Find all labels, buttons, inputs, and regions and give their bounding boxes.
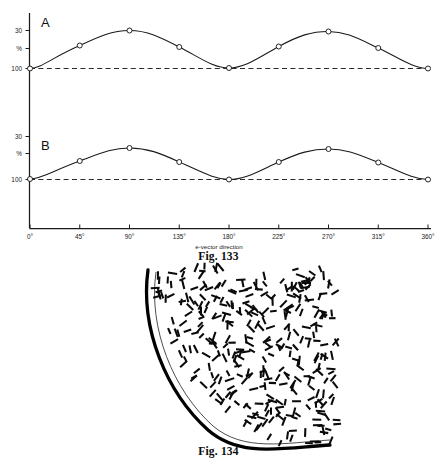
microvillus-dash (323, 389, 324, 398)
x-axis-group (30, 225, 432, 229)
microvillus-dash (319, 266, 322, 273)
fig133-plot: 30 % 100 30 % 100 A B (0, 0, 437, 262)
marker-b-270 (326, 147, 331, 152)
microvillus-dash (199, 333, 204, 337)
microvillus-dash (258, 324, 264, 331)
microvillus-dash (209, 363, 210, 371)
microvillus-dash (325, 353, 326, 361)
microvillus-dash (247, 320, 251, 327)
microvillus-dash (189, 345, 190, 353)
marker-a-270 (326, 29, 331, 34)
microvillus-dash (309, 271, 315, 276)
microvillus-dash (262, 419, 267, 427)
y-ticklabel-b-30: 30 (15, 133, 23, 140)
microvillus-dash (296, 274, 305, 277)
microvillus-dash (225, 322, 233, 323)
panel-b (28, 146, 431, 183)
microvillus-dash (312, 306, 318, 308)
microvillus-dash (279, 383, 287, 385)
microvillus-dash (266, 371, 269, 379)
microvillus-dash (295, 413, 300, 417)
microvillus-dash (263, 368, 264, 377)
microvillus-dash (285, 399, 286, 405)
microvillus-dash (255, 289, 263, 290)
microvillus-dash (316, 326, 317, 332)
microvillus-dash (222, 280, 226, 287)
marker-a-180 (227, 66, 232, 71)
microvillus-dash (210, 390, 216, 397)
microvillus-dash (322, 313, 324, 319)
microvillus-dash (280, 300, 287, 307)
microvillus-dash (324, 378, 328, 384)
microvillus-dash (288, 332, 290, 341)
panel-letter-a: A (41, 15, 50, 30)
y-ticklabel-b-100: 100 (11, 176, 22, 183)
microvillus-dash (179, 278, 185, 281)
microvillus-dash (316, 411, 325, 412)
arc-outline-group (147, 270, 330, 449)
microvillus-dash (200, 294, 206, 300)
microvillus-dash (331, 375, 336, 382)
microvillus-dash (308, 340, 310, 348)
microvillus-dash (316, 389, 319, 398)
microvillus-dash (210, 382, 216, 388)
microvillus-dash (323, 271, 324, 280)
microvillus-dash (323, 427, 325, 435)
microvillus-dash (247, 337, 253, 339)
microvillus-dash (227, 386, 234, 390)
microvillus-dash (206, 301, 209, 307)
microvillus-dash (263, 281, 267, 286)
microvillus-dash (251, 312, 258, 315)
microvillus-dash (179, 301, 186, 302)
microvillus-dash (249, 388, 258, 390)
microvillus-dash (331, 397, 334, 405)
marker-b-45 (77, 159, 82, 164)
microvillus-dash (293, 329, 298, 336)
marker-a-135 (177, 45, 182, 50)
microvillus-dash (189, 296, 194, 304)
microvillus-dash (242, 301, 249, 303)
microvillus-dash (217, 393, 223, 400)
x-ticklabel-225: 225° (272, 233, 286, 240)
microvilli-dash-field (151, 263, 341, 446)
microvillus-dash (204, 307, 207, 313)
microvillus-dash (326, 369, 335, 370)
microvillus-dash (194, 263, 198, 272)
microvillus-dash (228, 349, 229, 356)
curve-b (30, 148, 428, 180)
microvillus-dash (292, 417, 298, 419)
microvillus-dash (308, 397, 315, 400)
microvillus-dash (248, 326, 254, 332)
microvillus-dash (225, 378, 234, 381)
microvillus-dash (319, 293, 327, 294)
arc-outline (147, 270, 330, 449)
microvillus-dash (285, 284, 287, 292)
microvillus-dash (331, 310, 332, 317)
microvillus-dash (293, 407, 295, 416)
x-ticklabel-360: 360° (421, 233, 435, 240)
marker-b-0 (28, 177, 33, 182)
marker-b-315 (376, 160, 381, 165)
microvillus-dash (183, 345, 186, 352)
microvillus-dash (331, 290, 338, 295)
microvillus-dash (306, 405, 310, 410)
y-ticklabel-b-percent: % (16, 150, 22, 157)
microvillus-dash (310, 277, 314, 281)
microvillus-dash (213, 332, 216, 341)
x-ticklabel-270: 270° (322, 233, 336, 240)
microvillus-dash (313, 332, 314, 338)
panel-letter-b: B (41, 138, 50, 153)
microvillus-dash (290, 435, 293, 442)
microvillus-dash (305, 338, 312, 339)
marker-a-90 (127, 28, 132, 33)
marker-b-90 (127, 146, 132, 151)
microvillus-dash (191, 287, 199, 290)
microvillus-dash (223, 313, 226, 321)
microvillus-dash (333, 382, 338, 388)
microvillus-dash (305, 300, 314, 301)
microvillus-dash (266, 295, 271, 299)
marker-b-180 (227, 177, 232, 182)
microvillus-dash (170, 339, 178, 343)
microvillus-dash (185, 311, 192, 316)
microvillus-dash (223, 354, 227, 362)
